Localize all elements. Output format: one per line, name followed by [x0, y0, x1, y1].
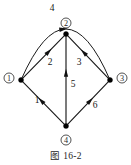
directed-graph-canvas: 123456 1234 图 16-2	[0, 0, 131, 165]
vertex-dot-1[interactable]	[19, 78, 24, 83]
vertex-dot-2[interactable]	[64, 32, 69, 37]
edge-label-1: 1	[35, 95, 40, 105]
node-label-3: 3	[120, 74, 124, 83]
vertex-dot-4[interactable]	[64, 124, 69, 129]
edge-label-4: 4	[50, 3, 55, 13]
vertex-dot-3[interactable]	[108, 78, 113, 83]
edge-label-5: 5	[71, 79, 76, 89]
edge-label-6: 6	[93, 100, 98, 110]
figure-caption: 图 16-2	[50, 151, 82, 161]
figure-container: 123456 1234 图 16-2	[0, 0, 131, 165]
node-label-4: 4	[64, 136, 68, 145]
edge-label-2: 2	[48, 57, 53, 67]
edge-label-3: 3	[77, 57, 82, 67]
node-label-1: 1	[7, 74, 11, 83]
node-label-2: 2	[64, 19, 68, 28]
edge-5-arrowhead	[64, 69, 68, 77]
